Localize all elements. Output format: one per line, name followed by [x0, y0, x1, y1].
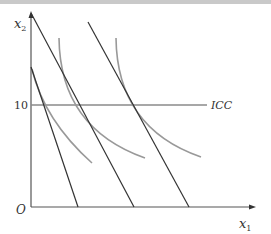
x-axis-arrow-icon	[249, 205, 256, 210]
origin-label: O	[16, 203, 26, 217]
x-axis-label: x1	[239, 216, 251, 233]
budget-lines	[31, 13, 189, 207]
diagram-canvas: x2 10 O x1 ICC	[0, 0, 271, 234]
icc-label: ICC	[210, 99, 233, 112]
y-axis-label: x2	[14, 16, 26, 33]
y-tick-label: 10	[14, 99, 28, 112]
indifference-curve-mid	[59, 38, 145, 158]
budget-line-high	[88, 22, 189, 207]
budget-line-mid	[31, 13, 134, 207]
